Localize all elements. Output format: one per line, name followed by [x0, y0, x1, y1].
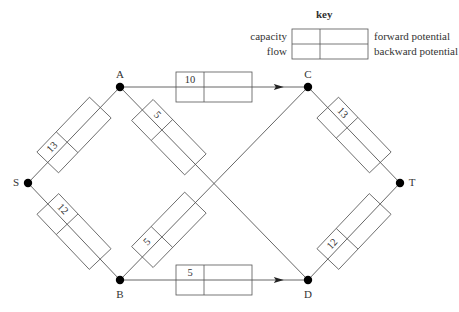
node-C	[304, 83, 312, 91]
edge-box-A-D: 5	[132, 99, 207, 174]
key-flow-label: flow	[267, 45, 287, 57]
edge-capacity-label: 10	[185, 74, 196, 85]
node-D	[304, 276, 312, 284]
node-label-C: C	[304, 68, 311, 80]
node-label-T: T	[409, 176, 416, 188]
node-label-S: S	[13, 176, 19, 188]
edge-box-C-T: 13	[317, 97, 391, 173]
key-backward-potential-label: backward potential	[374, 45, 458, 57]
network-diagram: key capacity flow forward potential back…	[0, 0, 459, 312]
edge-box-A-C: 10	[176, 72, 252, 102]
key-capacity-label: capacity	[250, 30, 287, 42]
edge-box-frame	[132, 99, 207, 174]
edge-box-S-A: 13	[37, 97, 111, 173]
edge-box-B-D: 5	[176, 265, 252, 295]
edge-box-S-B: 12	[37, 194, 111, 270]
node-S	[24, 179, 32, 187]
edge-box-D-T: 12	[317, 194, 391, 270]
node-T	[396, 179, 404, 187]
edge-box-frame	[317, 97, 391, 173]
key-forward-potential-label: forward potential	[374, 30, 450, 42]
edge-capacity-label: 5	[187, 267, 192, 278]
node-label-D: D	[304, 288, 312, 300]
edge-box-frame	[132, 192, 207, 267]
edge-box-frame	[317, 194, 391, 270]
key-title: key	[316, 8, 333, 20]
key: key capacity flow forward potential back…	[250, 8, 458, 59]
edge-box-frame	[37, 97, 111, 173]
edge-box-B-C: 5	[132, 192, 207, 267]
node-label-B: B	[116, 288, 123, 300]
node-A	[116, 83, 124, 91]
node-label-A: A	[116, 68, 124, 80]
node-B	[116, 276, 124, 284]
edge-box-frame	[37, 194, 111, 270]
